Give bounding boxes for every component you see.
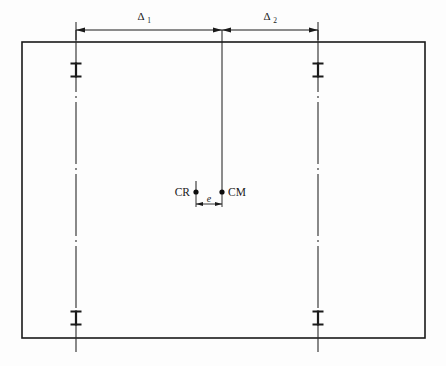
delta-1-arrow-right-icon [213,28,222,33]
dimension-delta-2: Δ 2 [222,10,318,40]
right-column-ibeam-top-icon [313,63,324,78]
delta-1-subscript: 1 [147,16,151,25]
cr-label: CR [175,186,191,198]
left-column-ibeam-bottom-icon [71,311,82,326]
cr-point-marker [193,189,198,194]
delta-1-arrow-left-icon [76,28,85,33]
diagram-canvas: Plan view of floor slab with two structu… [0,0,446,366]
right-column-group [313,30,324,352]
right-column-ibeam-bottom-icon [313,311,324,326]
left-column-ibeam-top-icon [71,63,82,78]
cm-point-marker [219,189,224,194]
delta-2-subscript: 2 [273,16,277,25]
left-column-group [71,30,82,352]
delta-1-label: Δ [137,10,144,22]
eccentricity-label: e [207,193,212,204]
dimension-delta-1: Δ 1 [76,10,222,40]
e-arrow-left-icon [196,202,203,206]
e-arrow-right-icon [215,202,222,206]
dimension-eccentricity: e [196,193,222,207]
structural-plan-diagram: Plan view of floor slab with two structu… [0,0,446,366]
delta-2-arrow-right-icon [309,28,318,33]
point-cm-group: CM [219,186,246,198]
point-cr-group: CR [175,181,199,198]
cm-label: CM [228,186,246,198]
delta-2-arrow-left-icon [222,28,231,33]
delta-2-label: Δ [263,10,270,22]
